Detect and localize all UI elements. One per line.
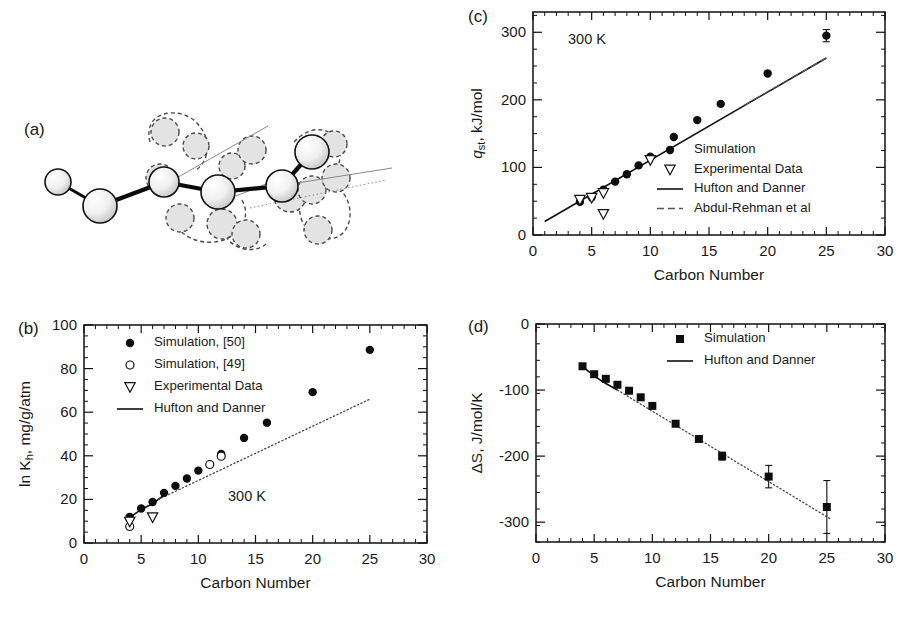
- y-tick-label: 300: [501, 23, 526, 40]
- x-tick-label: 5: [590, 549, 598, 566]
- y-tick-label: 20: [60, 490, 77, 507]
- data-point: [765, 473, 773, 481]
- legend-label: Experimental Data: [694, 161, 803, 176]
- panel-c-isosteric-heat-chart: (c) 0510152025300100200300Carbon Numberq…: [458, 0, 916, 310]
- y-tick-label: -100: [499, 381, 529, 398]
- legend-marker: [676, 335, 684, 343]
- series-group: [579, 362, 831, 533]
- data-point: [366, 346, 374, 354]
- data-point: [611, 177, 619, 185]
- legend-label: Hufton and Danner: [694, 180, 806, 195]
- data-point: [598, 189, 608, 199]
- data-point: [645, 156, 655, 166]
- chart-legend: SimulationExperimental DataHufton and Da…: [657, 141, 811, 215]
- y-tick-label: 40: [60, 447, 77, 464]
- ghost-atom: [166, 204, 194, 232]
- x-tick-label: 25: [361, 550, 378, 567]
- series-group: [575, 156, 656, 220]
- data-point: [183, 474, 191, 482]
- legend-marker: [665, 165, 675, 175]
- ghost-atom: [183, 133, 209, 159]
- fit-line-solid: [583, 366, 618, 390]
- data-point: [217, 452, 225, 460]
- data-point: [137, 504, 145, 512]
- panel-c-plot-area: 0510152025300100200300Carbon Numberqst, …: [468, 12, 893, 283]
- x-tick-label: 10: [642, 242, 659, 259]
- data-point: [240, 434, 248, 442]
- y-tick-label: 60: [60, 403, 77, 420]
- legend-label: Simulation: [704, 330, 766, 345]
- legend-marker: [126, 361, 134, 369]
- legend-marker: [666, 146, 674, 154]
- data-point: [625, 387, 633, 395]
- panel-c-svg: (c) 0510152025300100200300Carbon Numberq…: [458, 0, 916, 310]
- x-tick-label: 25: [818, 549, 835, 566]
- data-point: [637, 393, 645, 401]
- y-axis-label: ΔS, J/mol/K: [468, 392, 485, 474]
- backbone-atom: [266, 170, 298, 202]
- backbone-atom: [149, 167, 179, 197]
- data-point: [717, 100, 725, 108]
- backbone-atom: [45, 169, 71, 195]
- panel-d-entropy-chart: (d) 0510152025300-100-200-300Carbon Numb…: [458, 307, 916, 617]
- data-point: [670, 133, 678, 141]
- data-point: [613, 381, 621, 389]
- ghost-atom: [232, 220, 260, 248]
- x-axis-label: Carbon Number: [655, 573, 765, 590]
- y-tick-label: 100: [52, 316, 77, 333]
- legend-label: Simulation, [49]: [154, 356, 245, 371]
- data-point: [160, 489, 168, 497]
- legend-label: Simulation: [694, 141, 756, 156]
- data-point: [579, 362, 587, 370]
- panel-d-svg: (d) 0510152025300-100-200-300Carbon Numb…: [458, 307, 916, 617]
- x-axis-label: Carbon Number: [200, 574, 310, 591]
- chart-legend: SimulationHufton and Danner: [667, 330, 816, 367]
- data-point: [634, 161, 642, 169]
- data-point: [648, 402, 656, 410]
- panel-d-tag: (d): [468, 317, 489, 336]
- data-point: [823, 503, 831, 511]
- legend-label: Abdul-Rehman et al: [694, 200, 811, 215]
- panel-b-henry-constant-chart: (b) 051015202530020406080100Carbon Numbe…: [0, 307, 460, 617]
- temperature-annotation: 300 K: [228, 488, 266, 504]
- figure-root: (a) (b) 051015202530020406080100Carbon N…: [0, 0, 916, 617]
- y-tick-label: 80: [60, 360, 77, 377]
- ghost-atom: [304, 216, 332, 244]
- x-tick-label: 0: [80, 550, 88, 567]
- backbone-atom: [295, 135, 329, 169]
- data-point: [672, 420, 680, 428]
- x-tick-label: 30: [419, 550, 436, 567]
- x-tick-label: 25: [818, 242, 835, 259]
- x-tick-label: 0: [532, 549, 540, 566]
- y-axis-label: qst, kJ/mol: [468, 88, 487, 159]
- data-point: [695, 435, 703, 443]
- legend-label: Experimental Data: [154, 378, 263, 393]
- ghost-atom: [151, 118, 179, 146]
- panel-d-plot-area: 0510152025300-100-200-300Carbon NumberΔS…: [468, 315, 893, 590]
- panel-b-tag: (b): [18, 319, 39, 338]
- x-tick-label: 0: [529, 242, 537, 259]
- data-point: [171, 482, 179, 490]
- x-tick-label: 30: [877, 242, 894, 259]
- fit-line-dashed: [744, 58, 826, 105]
- data-point: [598, 210, 608, 220]
- data-point: [263, 418, 271, 426]
- data-point: [718, 452, 726, 460]
- y-tick-label: 200: [501, 91, 526, 108]
- y-tick-label: 0: [69, 534, 77, 551]
- backbone-atom: [201, 175, 235, 209]
- legend-label: Hufton and Danner: [704, 352, 816, 367]
- data-point: [602, 375, 610, 383]
- x-tick-label: 5: [587, 242, 595, 259]
- legend-label: Hufton and Danner: [154, 400, 266, 415]
- x-tick-label: 20: [304, 550, 321, 567]
- y-tick-label: -200: [499, 447, 529, 464]
- x-tick-label: 30: [877, 549, 894, 566]
- data-point: [147, 513, 157, 523]
- data-point: [822, 31, 830, 39]
- chart-legend: Simulation, [50]Simulation, [49]Experime…: [117, 334, 266, 415]
- y-tick-label: -300: [499, 513, 529, 530]
- data-point: [590, 370, 598, 378]
- plot-frame: [84, 325, 427, 543]
- legend-marker: [126, 339, 134, 347]
